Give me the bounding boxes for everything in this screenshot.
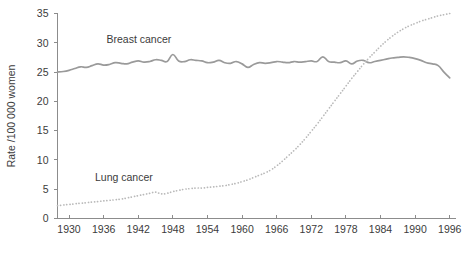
y-axis-ticks: 05101520253035 [37,7,58,224]
y-tick-label: 30 [37,37,49,49]
x-tick-label: 1996 [438,223,462,235]
y-axis-title: Rate /100 000 women [5,64,17,167]
y-tick-label: 0 [43,212,49,224]
series-annotations: Breast cancerLung cancer [95,33,172,183]
x-tick-label: 1930 [57,223,81,235]
y-tick-label: 15 [37,124,49,136]
x-tick-label: 1954 [196,223,220,235]
lung-cancer-label: Lung cancer [95,171,153,183]
y-tick-label: 35 [37,7,49,19]
x-tick-label: 1960 [230,223,254,235]
x-tick-label: 1972 [300,223,324,235]
x-tick-label: 1966 [265,223,289,235]
line-chart: 05101520253035 1930193619421948195419601… [0,0,467,253]
x-tick-label: 1978 [334,223,358,235]
x-tick-label: 1990 [403,223,427,235]
y-tick-label: 5 [43,183,49,195]
x-tick-label: 1984 [369,223,393,235]
y-tick-label: 10 [37,154,49,166]
y-tick-label: 25 [37,66,49,78]
x-axis-ticks: 1930193619421948195419601966197219781984… [57,215,461,235]
y-tick-label: 20 [37,95,49,107]
x-tick-label: 1948 [161,223,185,235]
chart-container: 05101520253035 1930193619421948195419601… [0,0,467,253]
x-tick-label: 1936 [92,223,116,235]
x-tick-label: 1942 [127,223,151,235]
breast-cancer-label: Breast cancer [107,33,172,45]
series-line-breast-cancer [58,54,450,77]
